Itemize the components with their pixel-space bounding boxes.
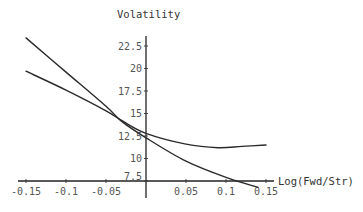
y-tick-label: 12.5	[118, 131, 142, 142]
x-tick-label: -0.05	[91, 186, 121, 197]
y-axis-label: Volatility	[117, 8, 180, 20]
x-tick-label: -0.15	[11, 186, 41, 197]
y-tick-label: 22.5	[118, 41, 142, 52]
x-tick-label: 0.1	[217, 186, 235, 197]
y-tick-label: 17.5	[118, 86, 142, 97]
y-tick-label: 10	[130, 153, 142, 164]
x-tick-label: -0.1	[54, 186, 78, 197]
x-axis-label: Log(Fwd/Str)	[278, 175, 354, 187]
volatility-chart: Volatility Log(Fwd/Str) -0.15-0.1-0.050.…	[0, 0, 363, 212]
series-line-curve-steep	[26, 38, 258, 187]
y-tick-label: 20	[130, 63, 142, 74]
y-tick-label: 7.5	[124, 171, 142, 182]
x-tick-label: 0.05	[174, 186, 198, 197]
y-ticks: 7.51012.51517.52022.5	[118, 41, 148, 183]
y-tick-label: 15	[130, 108, 142, 119]
